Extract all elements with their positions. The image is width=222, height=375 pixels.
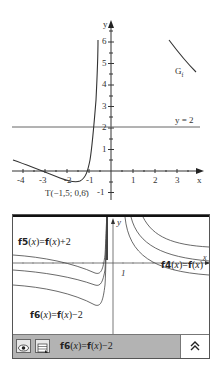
y-tick-label: 1 bbox=[102, 145, 107, 154]
x-tick-label: -4 bbox=[17, 176, 25, 185]
y-tick-label: 2 bbox=[102, 123, 107, 132]
x-tick-label: 1 bbox=[131, 176, 136, 185]
entry-line-input[interactable]: f6(x)=f(x)−2 bbox=[60, 341, 113, 351]
eye-icon bbox=[17, 342, 30, 354]
curve-label-f6[interactable]: f6(x)=f(x)−2 bbox=[30, 310, 83, 320]
x-tick-label: 2 bbox=[153, 176, 158, 185]
graph-label: Gf bbox=[175, 67, 184, 80]
calc-x-axis-label: x bbox=[203, 253, 207, 262]
entry-line-bar: f6(x)=f(x)−2 bbox=[13, 334, 209, 358]
x-tick-label: -2 bbox=[64, 176, 72, 185]
curve-label-f4[interactable]: f4(x)=f(x) bbox=[161, 260, 203, 270]
y-tick-label: 5 bbox=[102, 59, 107, 68]
expand-button[interactable] bbox=[180, 335, 209, 358]
y-tick-label: 3 bbox=[102, 102, 107, 111]
y-tick-label: 6 bbox=[102, 37, 107, 46]
double-chevron-up-icon bbox=[190, 341, 200, 351]
show-hide-button[interactable] bbox=[16, 339, 31, 353]
table-button[interactable] bbox=[35, 339, 50, 353]
y-axis-arrow-icon bbox=[108, 20, 114, 28]
calculator-graph-window: y x 1 f5(x)=f(x)+2 f4(x)=f(x) f6(x)=f(x)… bbox=[12, 214, 210, 359]
y-tick-label: 4 bbox=[102, 80, 107, 89]
graph-left-branch bbox=[13, 40, 98, 182]
calc-y-axis-label: y bbox=[117, 218, 121, 227]
x-axis-arrow-icon bbox=[196, 168, 204, 174]
x-tick-label: -3 bbox=[39, 176, 47, 185]
calc-unit-label: 1 bbox=[121, 269, 126, 278]
y-axis-label: y bbox=[103, 20, 108, 29]
graph-canvas bbox=[0, 0, 222, 205]
x-tick-label: -1 bbox=[86, 176, 94, 185]
curve-label-f5[interactable]: f5(x)=f(x)+2 bbox=[18, 237, 71, 247]
asymptote-label: y = 2 bbox=[175, 116, 194, 125]
x-tick-label: 3 bbox=[175, 176, 180, 185]
turning-point-label: T(−1,5; 0,6̄) bbox=[45, 189, 89, 198]
table-icon bbox=[36, 342, 49, 354]
function-graph: -4 -3 -2 -1 1 2 3 x -1 1 2 3 4 5 6 y y =… bbox=[0, 0, 222, 205]
y-tick-label: -1 bbox=[97, 188, 105, 197]
x-axis-label: x bbox=[197, 176, 202, 185]
